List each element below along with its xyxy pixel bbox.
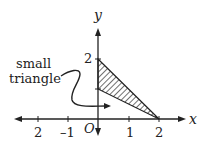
- x-tick-label-neg2: 2: [34, 125, 42, 140]
- y-tick-label-2: 2: [84, 51, 92, 66]
- annotation-line2: triangle: [9, 71, 61, 86]
- x-tick-label-neg1: –1: [60, 125, 75, 140]
- small-triangle-region: [98, 59, 159, 119]
- pointer-arrowhead-icon: [104, 103, 111, 109]
- coordinate-diagram: x y O 2 –1 1 2 2 small triangle: [0, 0, 208, 151]
- y-axis-label: y: [93, 7, 103, 23]
- x-axis-left-arrow-icon: [14, 116, 22, 122]
- y-axis-up-arrow-icon: [95, 28, 101, 36]
- x-tick-label-1: 1: [126, 125, 134, 140]
- x-axis-label: x: [189, 111, 197, 127]
- x-axis: [14, 116, 186, 122]
- x-axis-right-arrow-icon: [178, 116, 186, 122]
- y-axis-down-arrow-icon: [95, 128, 101, 136]
- annotation-line1: small: [16, 56, 51, 71]
- origin-label: O: [84, 121, 95, 136]
- x-tick-label-2: 2: [155, 125, 163, 140]
